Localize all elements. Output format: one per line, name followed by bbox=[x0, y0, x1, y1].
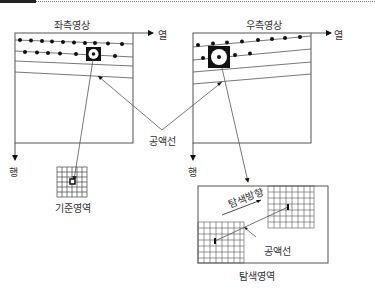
epipolar-matching-diagram bbox=[0, 0, 375, 292]
search-epipolar-line-label: 공액선 bbox=[264, 243, 291, 258]
left-row-label: 행 bbox=[9, 164, 18, 179]
search-area-label: 탐색영역 bbox=[239, 268, 275, 283]
reference-area-grid bbox=[57, 167, 87, 197]
reference-area-label: 기준영역 bbox=[55, 200, 91, 215]
right-column-label: 열 bbox=[334, 27, 343, 42]
epipolar-line-label: 공액선 bbox=[149, 133, 176, 148]
right-row-label: 행 bbox=[188, 164, 197, 179]
right-image-title: 우측영상 bbox=[246, 17, 282, 32]
left-column-label: 열 bbox=[158, 27, 167, 42]
left-image-title: 좌측영상 bbox=[54, 17, 90, 32]
left-image bbox=[15, 33, 153, 160]
right-image bbox=[193, 33, 331, 160]
